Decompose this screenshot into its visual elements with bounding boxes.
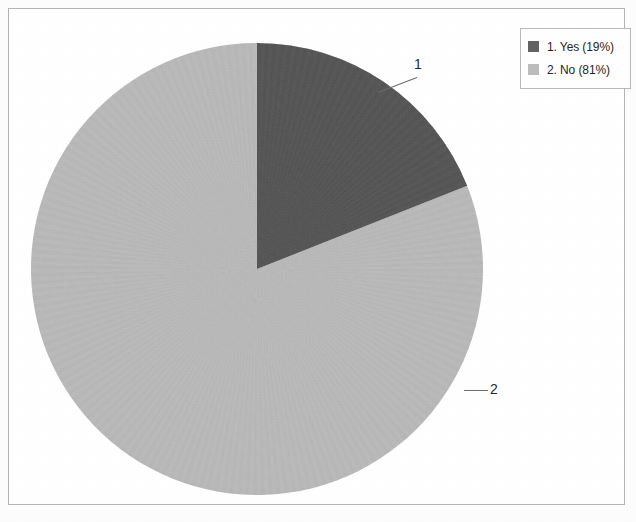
legend-label-yes: 1. Yes (19%) <box>547 40 614 54</box>
pie-svg <box>31 43 483 495</box>
callout-label-1: 1 <box>414 57 422 71</box>
legend-label-no: 2. No (81%) <box>547 63 610 77</box>
callout-leader-line-2 <box>464 390 488 391</box>
legend-swatch-icon-no <box>528 64 539 75</box>
chart-frame: 1 2 1. Yes (19%) 2. No (81%) <box>8 8 625 505</box>
legend: 1. Yes (19%) 2. No (81%) <box>520 28 631 89</box>
pie-chart <box>31 43 483 495</box>
legend-item-yes[interactable]: 1. Yes (19%) <box>528 35 623 58</box>
legend-item-no[interactable]: 2. No (81%) <box>528 58 623 81</box>
callout-label-2: 2 <box>490 382 498 396</box>
legend-swatch-icon-yes <box>528 41 539 52</box>
chart-screenshot: 1 2 1. Yes (19%) 2. No (81%) <box>0 0 636 522</box>
